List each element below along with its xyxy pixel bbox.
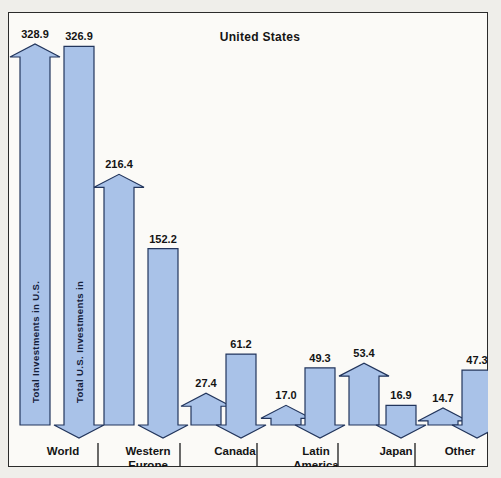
value-label: 152.2 xyxy=(149,233,177,245)
category-labels-layer: WorldWesternEuropeCanadaLatinAmericaJapa… xyxy=(47,445,476,467)
chart-canvas: United States Total Investments in U.S.T… xyxy=(0,0,501,478)
category-label: Latin xyxy=(302,445,329,457)
value-label: 328.9 xyxy=(21,28,49,40)
bar-latin-america-outbound xyxy=(295,368,345,438)
bar-latin-america-inbound xyxy=(261,405,311,425)
category-label: Western xyxy=(125,445,170,457)
bar-western-europe-inbound xyxy=(94,174,144,425)
bar-other-inbound xyxy=(418,408,468,425)
bar-canada-outbound xyxy=(216,354,266,438)
value-label: 61.2 xyxy=(230,338,251,350)
series-label-outbound: Total U.S. Investments in xyxy=(74,281,85,403)
category-label-line2: America xyxy=(293,459,339,467)
series-label-inbound: Total Investments in U.S. xyxy=(30,281,41,403)
value-label: 53.4 xyxy=(353,347,375,359)
bar-japan-outbound xyxy=(376,405,426,438)
category-label: Other xyxy=(445,445,476,457)
category-label: Japan xyxy=(379,445,412,457)
series-vertical-labels: Total Investments in U.S.Total U.S. Inve… xyxy=(30,281,85,403)
bar-canada-inbound xyxy=(181,393,231,425)
category-label: World xyxy=(47,445,79,457)
category-label-line2: Europe xyxy=(128,459,168,467)
category-label: Canada xyxy=(214,445,256,457)
value-label: 27.4 xyxy=(195,377,217,389)
bar-western-europe-outbound xyxy=(138,249,188,438)
bar-chart-plot: Total Investments in U.S.Total U.S. Inve… xyxy=(8,12,488,467)
bar-japan-inbound xyxy=(339,363,389,425)
value-label: 16.9 xyxy=(390,389,411,401)
value-label: 17.0 xyxy=(275,389,296,401)
bar-other-outbound xyxy=(452,370,488,438)
value-label: 14.7 xyxy=(432,392,453,404)
value-label: 47.3 xyxy=(466,354,487,366)
value-label: 216.4 xyxy=(105,158,133,170)
value-label: 49.3 xyxy=(309,352,330,364)
value-label: 326.9 xyxy=(65,30,93,42)
